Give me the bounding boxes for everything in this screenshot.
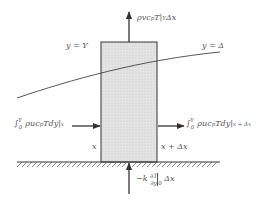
lower-limit: 0	[191, 124, 195, 130]
right-flux-body: ρuc	[197, 119, 211, 128]
top-flux-symbol: ρvc	[137, 13, 151, 22]
right-flux-rest: Tdy|	[215, 119, 233, 128]
wall-flux-numerator: ∂T	[150, 172, 157, 179]
y-equals-Y-label: y = Y	[66, 42, 88, 50]
x-left-label: x	[92, 143, 97, 151]
y-equals-delta-label: y = Δ	[202, 42, 224, 50]
wall-hatching	[17, 162, 217, 167]
control-volume	[101, 42, 157, 162]
lower-limit: 0	[19, 124, 23, 130]
control-volume-diagram	[0, 0, 270, 201]
right-flux-label: ∫Y0ρucpTdy|x + Δx	[186, 120, 251, 128]
left-flux-eval: x	[61, 121, 64, 127]
right-flux-eval: x + Δx	[233, 121, 251, 127]
x-right-label: x + Δx	[161, 143, 188, 151]
top-flux-label: ρvcpT|YΔx	[137, 14, 176, 22]
wall-flux-eval: 0	[158, 180, 162, 186]
top-flux-dx: Δx	[166, 13, 176, 22]
wall-flux-denominator: ∂y	[150, 179, 157, 186]
left-flux-rest: Tdy|	[43, 119, 61, 128]
wall-flux-dx: Δx	[164, 174, 174, 183]
upper-limit: Y	[18, 117, 22, 123]
wall-flux-prefix: −k	[136, 174, 148, 183]
left-flux-body: ρuc	[25, 119, 39, 128]
upper-limit: Y	[190, 117, 194, 123]
wall-flux-label: −k ∂T ∂y 0 Δx	[136, 172, 175, 186]
wall-flux-fraction: ∂T ∂y	[150, 172, 157, 186]
left-flux-label: ∫Y0ρucpTdy|x	[14, 120, 64, 128]
